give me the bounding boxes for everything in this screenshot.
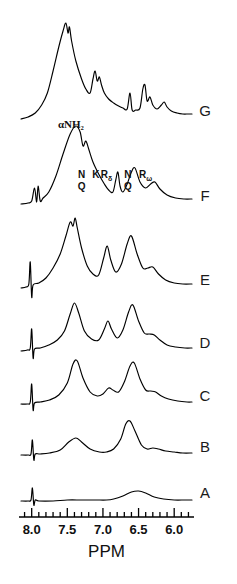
axis-tick-label-2: 7.0 [94,522,112,537]
axis-tick-label-4: 6.0 [165,522,183,537]
trace-label-g: G [199,102,211,119]
peak-label-n-7.3: N [78,169,85,180]
axis-tick-label-0: 8.0 [23,522,41,537]
axis-tick-label-3: 6.5 [130,522,148,537]
peak-label-q-7.3: Q [78,181,86,192]
peak-label-q-6.65: Q [124,181,132,192]
peak-label-k-7.1: K [92,169,100,180]
trace-label-c: C [200,387,211,404]
trace-label-d: D [200,334,211,351]
axis-title-ppm: PPM [88,542,125,561]
trace-label-e: E [200,271,210,288]
axis-tick-label-1: 7.5 [58,522,76,537]
peak-label-n-6.65: N [124,169,131,180]
peak-label-alpha-nh2: αNH₂ [58,118,85,130]
spectra-plot: GFEDCBA αNH₂NQKRδNQRω 8.07.57.06.56.0PPM [0,0,237,584]
nmr-figure: GFEDCBA αNH₂NQKRδNQRω 8.07.57.06.56.0PPM [0,0,237,584]
trace-label-b: B [200,438,210,455]
trace-label-f: F [200,187,209,204]
trace-label-a: A [200,484,210,501]
